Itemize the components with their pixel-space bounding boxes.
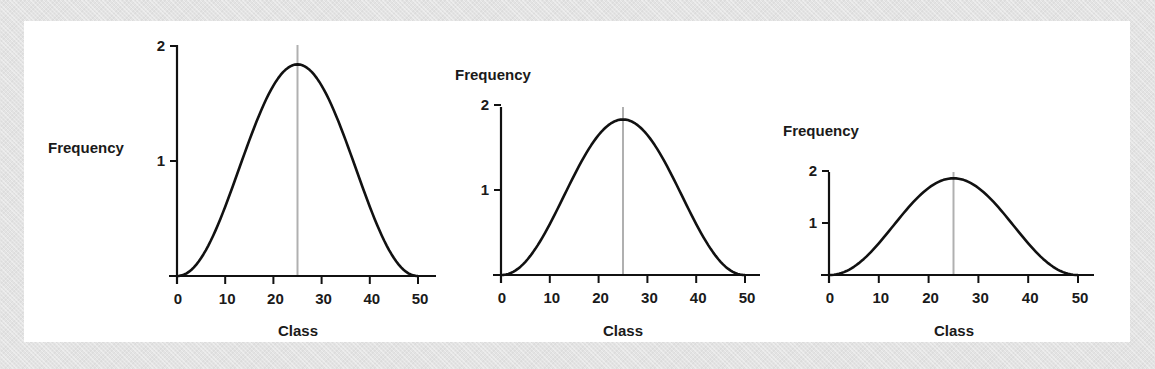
y-axis-title: Frequency xyxy=(48,139,125,156)
x-tick-label: 30 xyxy=(641,289,658,306)
x-tick-label: 20 xyxy=(592,289,609,306)
y-tick-label: 2 xyxy=(809,162,817,179)
y-axis-title: Frequency xyxy=(455,66,532,83)
y-axis-title: Frequency xyxy=(783,122,860,139)
x-tick-label: 20 xyxy=(922,289,939,306)
y-tick-label: 1 xyxy=(157,152,165,169)
chart-2: Frequency Class 1201020304050 xyxy=(455,66,760,339)
x-tick-label: 30 xyxy=(972,289,989,306)
x-axis-title: Class xyxy=(934,322,974,339)
y-tick-label: 1 xyxy=(481,181,489,198)
x-tick-label: 0 xyxy=(498,289,506,306)
x-tick-label: 50 xyxy=(412,290,429,307)
x-tick-label: 0 xyxy=(826,289,834,306)
x-tick-label: 20 xyxy=(267,290,284,307)
x-tick-label: 40 xyxy=(363,290,380,307)
x-tick-label: 10 xyxy=(219,290,236,307)
charts-svg: Frequency Class 1201020304050 Frequency … xyxy=(0,0,1155,369)
x-tick-label: 30 xyxy=(315,290,332,307)
x-tick-label: 50 xyxy=(739,289,756,306)
x-axis-title: Class xyxy=(603,322,643,339)
x-tick-label: 0 xyxy=(174,290,182,307)
x-tick-label: 10 xyxy=(872,289,889,306)
x-tick-label: 50 xyxy=(1072,289,1089,306)
x-tick-label: 10 xyxy=(543,289,560,306)
y-tick-label: 2 xyxy=(481,96,489,113)
x-tick-label: 40 xyxy=(1022,289,1039,306)
chart-3: Frequency Class 1201020304050 xyxy=(783,122,1094,339)
x-axis-title: Class xyxy=(278,322,318,339)
chart-1: Frequency Class 1201020304050 xyxy=(48,37,436,339)
y-tick-label: 2 xyxy=(157,37,165,54)
y-tick-label: 1 xyxy=(809,214,817,231)
x-tick-label: 40 xyxy=(690,289,707,306)
